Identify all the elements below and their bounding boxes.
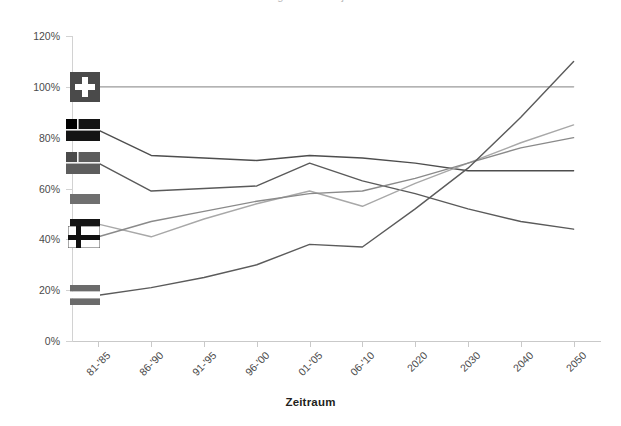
y-axis-label: 0% bbox=[0, 336, 60, 346]
chart-container: Entwicklung der Anteile je Zeitraum 0%20… bbox=[0, 0, 621, 426]
y-axis-tick bbox=[66, 341, 73, 342]
y-axis-label: 60% bbox=[0, 184, 60, 194]
y-axis-label: 120% bbox=[0, 31, 60, 41]
y-axis-label: 40% bbox=[0, 234, 60, 244]
x-axis-tick bbox=[257, 341, 258, 347]
x-axis-tick bbox=[415, 341, 416, 347]
chart-title-clipped: Entwicklung der Anteile je Zeitraum bbox=[0, 0, 621, 4]
x-axis-tick bbox=[574, 341, 575, 347]
y-axis-label: 100% bbox=[0, 82, 60, 92]
x-axis-tick bbox=[468, 341, 469, 347]
y-axis-label: 80% bbox=[0, 133, 60, 143]
x-axis-tick bbox=[362, 341, 363, 347]
series-line bbox=[98, 61, 573, 295]
x-axis-title: Zeitraum bbox=[0, 396, 621, 408]
flag-marker-canton-dark-b bbox=[66, 152, 100, 174]
x-axis-tick bbox=[521, 341, 522, 347]
series-line bbox=[98, 138, 573, 237]
flag-marker-gray-band bbox=[70, 194, 100, 204]
series-lines bbox=[72, 36, 600, 341]
flag-marker-nordic-cross bbox=[68, 226, 100, 248]
flag-marker-switzerland bbox=[70, 72, 100, 102]
flag-marker-canton-dark-a bbox=[66, 119, 100, 141]
x-axis-tick bbox=[310, 341, 311, 347]
plot-area bbox=[72, 36, 600, 341]
x-axis-tick bbox=[204, 341, 205, 347]
x-axis-tick bbox=[98, 341, 99, 347]
y-axis-label: 20% bbox=[0, 285, 60, 295]
x-axis-tick bbox=[151, 341, 152, 347]
series-line bbox=[98, 163, 573, 229]
flag-marker-tricolor bbox=[70, 285, 100, 305]
series-line bbox=[98, 125, 573, 237]
